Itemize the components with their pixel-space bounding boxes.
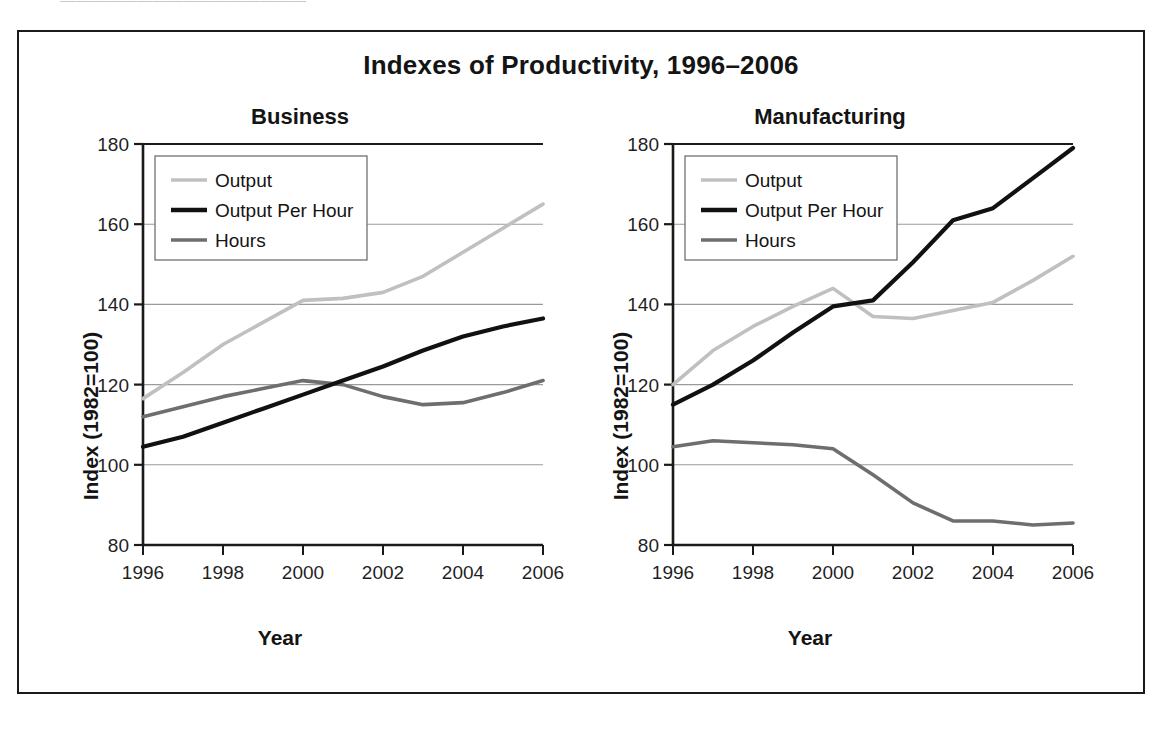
- y-tick-label-160: 160: [627, 214, 659, 235]
- x-tick-label-2000: 2000: [812, 562, 854, 583]
- y-tick-label-180: 180: [627, 134, 659, 155]
- series-line-output-per-hour[interactable]: [143, 318, 543, 446]
- y-tick-label-140: 140: [97, 294, 129, 315]
- plot-business: 8010012014016018019961998200020022004200…: [25, 132, 575, 612]
- legend-label-hours: Hours: [215, 230, 266, 251]
- y-tick-label-120: 120: [627, 375, 659, 396]
- x-tick-label-1996: 1996: [652, 562, 694, 583]
- y-tick-label-100: 100: [97, 455, 129, 476]
- series-line-hours[interactable]: [143, 381, 543, 417]
- legend-label-output: Output: [745, 170, 803, 191]
- legend-label-output-per-hour: Output Per Hour: [745, 200, 884, 221]
- panel-title-business: Business: [25, 104, 575, 130]
- y-tick-label-140: 140: [627, 294, 659, 315]
- x-tick-label-2002: 2002: [892, 562, 934, 583]
- panel-title-manufacturing: Manufacturing: [555, 104, 1105, 130]
- y-tick-label-160: 160: [97, 214, 129, 235]
- x-tick-label-2004: 2004: [972, 562, 1015, 583]
- y-tick-label-120: 120: [97, 375, 129, 396]
- figure-page: ———————————————— Indexes of Productivity…: [0, 0, 1166, 729]
- x-tick-label-2006: 2006: [1052, 562, 1094, 583]
- series-line-output[interactable]: [673, 256, 1073, 384]
- legend-label-output-per-hour: Output Per Hour: [215, 200, 354, 221]
- x-axis-label-manufacturing: Year: [595, 626, 1025, 650]
- x-axis-label-business: Year: [65, 626, 495, 650]
- figure-title: Indexes of Productivity, 1996–2006: [19, 50, 1143, 81]
- panel-manufacturing: Manufacturing Index (1982=100) Year 8010…: [555, 104, 1105, 674]
- x-tick-label-1996: 1996: [122, 562, 164, 583]
- clipped-header-text: ————————————————: [60, 0, 620, 7]
- x-tick-label-2002: 2002: [362, 562, 404, 583]
- y-tick-label-100: 100: [627, 455, 659, 476]
- series-line-hours[interactable]: [673, 441, 1073, 525]
- figure-frame: Indexes of Productivity, 1996–2006 Busin…: [17, 30, 1145, 694]
- y-tick-label-80: 80: [108, 535, 129, 556]
- x-tick-label-2000: 2000: [282, 562, 324, 583]
- y-tick-label-80: 80: [638, 535, 659, 556]
- panel-business: Business Index (1982=100) Year 801001201…: [25, 104, 575, 674]
- legend-label-output: Output: [215, 170, 273, 191]
- x-tick-label-2004: 2004: [442, 562, 485, 583]
- x-tick-label-1998: 1998: [732, 562, 774, 583]
- x-tick-label-1998: 1998: [202, 562, 244, 583]
- plot-manufacturing: 8010012014016018019961998200020022004200…: [555, 132, 1105, 612]
- legend-label-hours: Hours: [745, 230, 796, 251]
- y-tick-label-180: 180: [97, 134, 129, 155]
